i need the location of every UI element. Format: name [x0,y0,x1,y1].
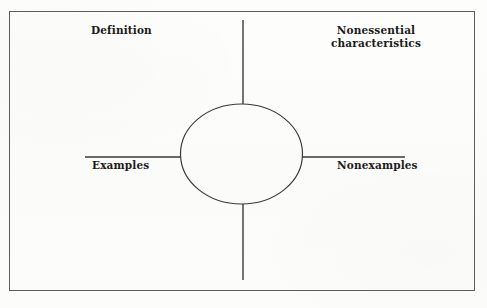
quadrant-label-nonexamples: Nonexamples [337,159,418,172]
frayer-model-diagram: Definition Nonessential characteristics … [0,0,487,308]
nonessential-label-line2: characteristics [326,37,426,50]
quadrant-label-nonessential-characteristics: Nonessential characteristics [326,24,426,50]
center-concept-ellipse [181,104,303,204]
quadrant-label-examples: Examples [92,159,149,172]
nonessential-label-line1: Nonessential [337,24,415,36]
quadrant-label-definition: Definition [91,24,152,37]
